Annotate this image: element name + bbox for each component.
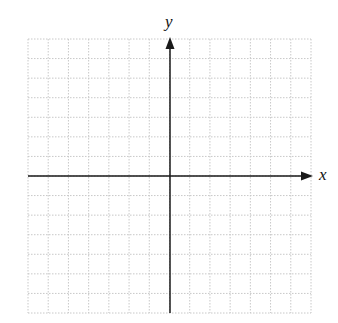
- coordinate-plane: [0, 0, 338, 323]
- x-axis-label: x: [319, 166, 327, 183]
- x-axis-arrow-icon: [301, 172, 313, 181]
- y-axis-label: y: [165, 13, 173, 30]
